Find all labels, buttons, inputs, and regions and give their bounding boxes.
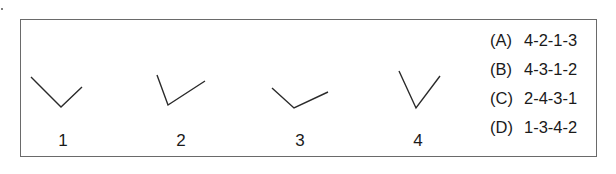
- option-key: (B): [490, 58, 524, 80]
- shape-label-2: 2: [171, 131, 191, 151]
- angle-shape-3: [272, 88, 328, 108]
- option-a[interactable]: (A)4-2-1-3: [490, 29, 577, 58]
- shape-label-4: 4: [408, 131, 428, 151]
- answer-options: (A)4-2-1-3 (B)4-3-1-2 (C)2-4-3-1 (D)1-3-…: [490, 29, 577, 145]
- option-key: (C): [490, 87, 524, 109]
- angle-shape-1: [31, 77, 82, 107]
- option-value: 2-4-3-1: [524, 89, 577, 107]
- option-value: 4-2-1-3: [524, 31, 577, 49]
- option-key: (D): [490, 116, 524, 138]
- option-b[interactable]: (B)4-3-1-2: [490, 58, 577, 87]
- option-value: 1-3-4-2: [524, 118, 577, 136]
- option-key: (A): [490, 29, 524, 51]
- angle-shape-4: [399, 71, 440, 108]
- option-value: 4-3-1-2: [524, 60, 577, 78]
- angle-shape-2: [157, 75, 205, 105]
- option-c[interactable]: (C)2-4-3-1: [490, 87, 577, 116]
- shape-label-1: 1: [53, 131, 73, 151]
- shape-label-3: 3: [290, 131, 310, 151]
- option-d[interactable]: (D)1-3-4-2: [490, 116, 577, 145]
